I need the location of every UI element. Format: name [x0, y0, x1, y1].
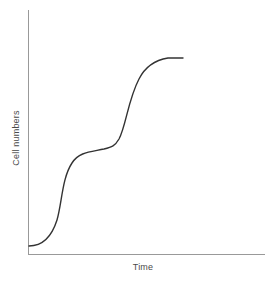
- growth-curve-path: [29, 58, 183, 246]
- growth-curve-figure: Cell numbers Time: [0, 0, 274, 285]
- y-axis-label: Cell numbers: [12, 78, 24, 198]
- plot-canvas: [0, 0, 274, 285]
- x-axis-label: Time: [108, 263, 178, 272]
